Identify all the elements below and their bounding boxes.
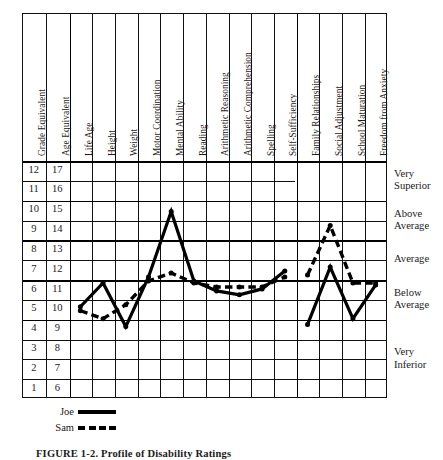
scale-cell-age-17: 17: [46, 165, 70, 176]
row-separator: [23, 280, 386, 282]
column-header-weight: Weight: [130, 129, 139, 156]
row-separator: [23, 201, 386, 203]
scale-cell-grade-7: 7: [22, 264, 46, 275]
row-separator: [23, 359, 386, 360]
legend-label-joe: Joe: [43, 404, 78, 420]
scale-cell-grade-4: 4: [22, 323, 46, 334]
scale-cell-grade-12: 12: [22, 165, 46, 176]
solid-line-swatch: [78, 410, 116, 413]
band-label-4: Very Inferior: [394, 346, 426, 371]
chart-grid-frame: [22, 13, 387, 398]
legend-label-sam: Sam: [43, 420, 78, 436]
row-separator: [23, 260, 386, 261]
disability-rating-profile-chart: Grade EquivalentAge EquivalentLife AgeHe…: [0, 0, 443, 460]
legend-item-sam: Sam: [43, 420, 116, 436]
row-separator: [23, 320, 386, 322]
column-header-arithmetic_comprehension: Arithmetic Comprehension: [244, 52, 253, 156]
legend: Joe Sam: [43, 404, 116, 436]
row-separator: [23, 340, 386, 341]
scale-cell-grade-9: 9: [22, 224, 46, 235]
column-header-freedom_from_anxiety: Freedom from Anxiety: [380, 69, 389, 156]
scale-cell-age-11: 11: [46, 284, 70, 295]
scale-cell-grade-5: 5: [22, 303, 46, 314]
column-header-life_age: Life Age: [85, 122, 94, 156]
column-header-social_adjustment: Social Adjustment: [335, 86, 344, 156]
figure-caption: FIGURE 1-2. Profile of Disability Rating…: [36, 448, 436, 459]
column-header-age_equivalent: Age Equivalent: [62, 97, 71, 157]
row-separator: [23, 240, 386, 242]
scale-cell-age-10: 10: [46, 303, 70, 314]
scale-cell-age-6: 6: [46, 383, 70, 394]
scale-cell-grade-1: 1: [22, 383, 46, 394]
scale-cell-age-13: 13: [46, 244, 70, 255]
scale-cell-age-16: 16: [46, 184, 70, 195]
scale-cell-age-7: 7: [46, 363, 70, 374]
band-label-0: Very Superior: [394, 168, 430, 193]
row-separator: [23, 300, 386, 301]
column-header-school_maturation: School Maturation: [358, 85, 367, 156]
row-separator: [23, 181, 295, 182]
band-label-1: Above Average: [394, 208, 429, 233]
column-header-reading: Reading: [199, 124, 208, 156]
column-header-self_sufficiency: Self-Sufficiency: [289, 94, 298, 156]
scale-cell-grade-10: 10: [22, 204, 46, 215]
scale-cell-grade-8: 8: [22, 244, 46, 255]
scale-cell-grade-3: 3: [22, 343, 46, 354]
column-header-arithmetic_reasoning: Arithmetic Reasoning: [221, 72, 230, 156]
column-header-motor_coordination: Motor Coordination: [153, 80, 162, 156]
scale-cell-age-9: 9: [46, 323, 70, 334]
scale-cell-grade-2: 2: [22, 363, 46, 374]
band-label-3: Below Average: [394, 287, 429, 312]
scale-cell-age-15: 15: [46, 204, 70, 215]
scale-cell-age-14: 14: [46, 224, 70, 235]
scale-cell-grade-11: 11: [22, 184, 46, 195]
column-header-height: Height: [108, 130, 117, 156]
band-label-2: Average: [394, 253, 429, 265]
legend-item-joe: Joe: [43, 404, 116, 420]
row-separator: [23, 379, 386, 380]
column-header-family_relationships: Family Relationships: [312, 75, 321, 156]
column-header-grade_equivalent: Grade Equivalent: [38, 89, 47, 156]
scale-cell-age-12: 12: [46, 264, 70, 275]
scale-cell-grade-6: 6: [22, 284, 46, 295]
column-header-mental_ability: Mental Ability: [176, 100, 185, 156]
column-header-spelling: Spelling: [267, 124, 276, 156]
row-separator: [23, 161, 386, 163]
dashed-line-swatch: [78, 426, 116, 430]
row-separator: [23, 221, 386, 222]
scale-cell-age-8: 8: [46, 343, 70, 354]
